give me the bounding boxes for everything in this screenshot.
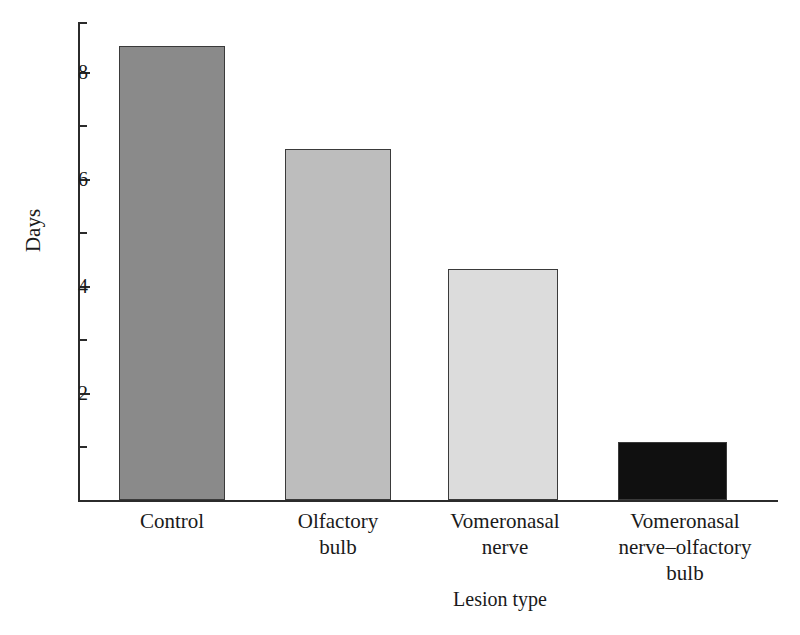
x-category-label-vomeronasal-nerve: Vomeronasal nerve [423, 508, 587, 560]
x-category-label-vomeronasal-nerve-olfactory-bulb: Vomeronasal nerve–olfactory bulb [592, 508, 778, 586]
x-axis-title: Lesion type [400, 588, 600, 611]
x-category-label-control: Control [92, 508, 252, 534]
bar-chart-figure: 8 6 4 2 Control Olfactory bulb Vomeronas… [0, 0, 800, 635]
bar-control [119, 46, 225, 500]
plot-area [78, 22, 778, 500]
x-category-label-line: bulb [592, 560, 778, 586]
x-category-label-line: Vomeronasal [423, 508, 587, 534]
x-category-label-line: Vomeronasal [592, 508, 778, 534]
x-category-label-line: Control [92, 508, 252, 534]
bar-vomeronasal-nerve-olfactory-bulb [618, 442, 727, 500]
x-category-label-line: Olfactory [258, 508, 418, 534]
x-category-label-olfactory-bulb: Olfactory bulb [258, 508, 418, 560]
bar-olfactory-bulb [285, 149, 391, 500]
x-category-label-line: bulb [258, 534, 418, 560]
x-category-label-line: nerve [423, 534, 587, 560]
x-axis-line [78, 500, 778, 502]
bar-vomeronasal-nerve [448, 269, 558, 500]
x-category-label-line: nerve–olfactory [592, 534, 778, 560]
y-axis-title: Days [21, 208, 46, 254]
